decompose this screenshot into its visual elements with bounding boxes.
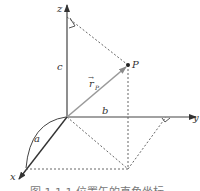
figure-caption: 图 1.1.1 位置矢的直角坐标 xyxy=(30,185,164,191)
position-vector xyxy=(67,67,126,117)
component-b-label: b xyxy=(102,105,108,116)
component-a-label: a xyxy=(34,133,40,144)
point-p-label: P xyxy=(131,59,139,70)
coordinate-diagram: z y x P c b a → r P 图 1.1.1 位置矢的直角坐标 xyxy=(0,0,200,191)
right-angle-y xyxy=(162,118,170,122)
z-label: z xyxy=(56,3,63,14)
component-c-label: c xyxy=(57,61,63,72)
point-p xyxy=(126,63,130,67)
x-label: x xyxy=(10,171,16,182)
arc-a xyxy=(26,117,66,168)
y-label: y xyxy=(192,112,199,123)
